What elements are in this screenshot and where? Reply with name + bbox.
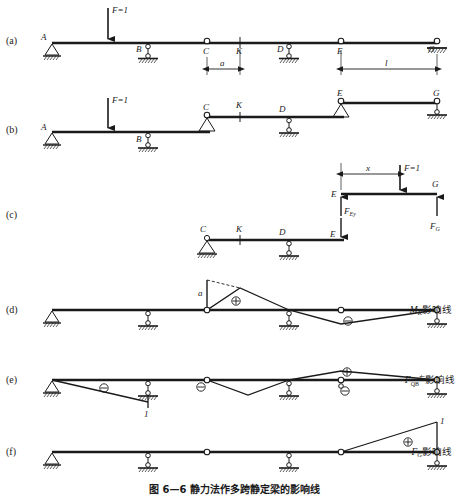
panel-d-ordinate-label: a <box>198 288 203 298</box>
panel-d-support-a <box>43 311 61 327</box>
panel-c: (c) E G F=1 x FEy FG <box>6 163 441 260</box>
label-e-point: E <box>336 46 343 56</box>
panel-f-support-a <box>43 453 61 469</box>
support-b-link: B <box>136 44 158 63</box>
panel-c-label: (c) <box>6 209 17 221</box>
panel-c-section-k: K <box>235 224 243 245</box>
dimension-a-label: a <box>220 58 225 68</box>
panel-c-label-e-lower: E <box>329 229 336 239</box>
panel-d-sign-minus <box>344 317 352 325</box>
panel-b-label-k: K <box>235 100 243 110</box>
panel-d-support-b <box>138 311 158 330</box>
hinge-c: C <box>203 38 210 56</box>
panel-b-section-k: K <box>235 100 243 122</box>
panel-c-fg-label: FG <box>429 221 441 232</box>
panel-f-ordinate-label: 1 <box>440 416 445 426</box>
panel-e-sign-minus-1 <box>100 384 108 392</box>
panel-f-support-d <box>279 453 299 472</box>
panel-e-segment-ab <box>52 380 148 402</box>
panel-b-label-e: E <box>336 88 343 98</box>
label-k-point: K <box>235 46 243 56</box>
panel-e-hinge-c <box>204 377 210 383</box>
panel-f-hinge-e <box>338 449 344 455</box>
unit-load-a-label: F=1 <box>111 5 128 15</box>
panel-b-label-a: A <box>40 122 47 132</box>
panel-e-hinge-e <box>338 377 344 388</box>
panel-c-label-e-upper: E <box>330 189 337 199</box>
panel-c-label-k: K <box>235 224 243 234</box>
panel-e-support-a <box>43 381 61 397</box>
panel-d: (d) a <box>6 280 452 330</box>
label-g-point: G <box>428 44 435 54</box>
panel-c-reaction-fg-up: FG <box>429 197 441 232</box>
panel-c-label-g: G <box>432 179 439 189</box>
panel-a: (a) A B <box>6 5 447 75</box>
dimension-l-label: l <box>385 58 388 68</box>
panel-e-ordinate-label: 1 <box>144 409 149 419</box>
panel-c-fey-label: FEy <box>343 206 356 217</box>
figure-caption: 图 6—6 静力法作多跨静定梁的影响线 <box>0 481 469 496</box>
panel-d-support-d <box>279 311 299 330</box>
panel-b-unit-load-label: F=1 <box>111 95 128 105</box>
panel-c-reaction-fey-up: FEy <box>341 197 356 217</box>
panel-e-sign-plus <box>343 368 351 376</box>
panel-b-support-b: B <box>136 133 158 152</box>
panel-b: (b) A B F=1 <box>6 88 447 152</box>
panel-d-sign-plus <box>232 297 240 305</box>
hinge-e: E <box>336 38 344 56</box>
label-c-point: C <box>203 46 210 56</box>
panel-c-label-c: C <box>200 224 207 234</box>
support-d-link: D <box>276 44 299 63</box>
panel-c-unit-load: F=1 <box>400 163 420 190</box>
panel-e-support-d <box>279 381 299 400</box>
dimension-l: l <box>341 50 437 75</box>
panel-b-label-g: G <box>433 88 440 98</box>
panel-e-sign-minus-2 <box>197 383 205 391</box>
panel-c-unit-load-label: F=1 <box>403 163 420 173</box>
unit-load-a: F=1 <box>108 5 128 39</box>
support-a-pin: A <box>40 32 61 60</box>
panel-b-label: (b) <box>6 124 18 136</box>
panel-d-title: MK影响线 <box>409 304 452 316</box>
panel-c-reaction-fey-down: E <box>329 218 341 239</box>
panel-f-support-b <box>138 453 158 472</box>
section-k: K <box>235 37 243 56</box>
panel-f-sign-plus <box>404 438 412 446</box>
panel-f-hinge-c <box>204 449 210 455</box>
panel-e-label: (e) <box>6 374 17 386</box>
label-b-point: B <box>136 44 142 54</box>
panel-b-label-d: D <box>278 104 286 114</box>
label-d-point: D <box>276 44 284 54</box>
panel-f-title: FG影响线 <box>410 446 452 458</box>
panel-e-title: FQB左影响线 <box>404 374 455 387</box>
panel-e-segment-cd <box>207 380 289 395</box>
panel-b-support-d: D <box>278 104 299 137</box>
panel-f: (f) 1 <box>6 416 452 472</box>
panel-b-label-b: B <box>136 134 142 144</box>
panel-d-hinge-e <box>338 307 344 313</box>
panel-d-label: (d) <box>6 304 18 316</box>
panel-d-hinge-c <box>204 307 210 313</box>
label-a-point: A <box>40 32 47 42</box>
panel-a-label: (a) <box>6 35 17 47</box>
support-g-roller: G <box>427 38 447 54</box>
panel-d-guide-dashed <box>207 280 240 288</box>
panel-c-support-d: D <box>278 227 299 260</box>
panel-c-label-d: D <box>278 227 286 237</box>
panel-c-dimension-x-label: x <box>365 163 370 173</box>
panel-e: (e) 1 <box>6 368 455 419</box>
panel-f-label: (f) <box>6 446 16 458</box>
panel-b-support-a: A <box>40 122 61 149</box>
panel-c-dimension-x: x <box>341 163 399 190</box>
panel-b-label-c: C <box>203 102 210 112</box>
panel-d-influence-line <box>52 288 437 324</box>
panel-b-unit-load: F=1 <box>108 95 128 128</box>
panel-e-segment-dg <box>289 371 437 380</box>
